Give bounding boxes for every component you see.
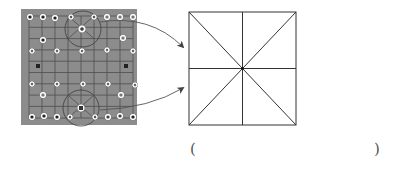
answer-blank[interactable]	[205, 142, 370, 158]
palace-square-diagram	[189, 12, 296, 125]
close-paren: )	[374, 142, 380, 157]
center-point	[241, 67, 244, 70]
open-paren: (	[190, 142, 196, 157]
